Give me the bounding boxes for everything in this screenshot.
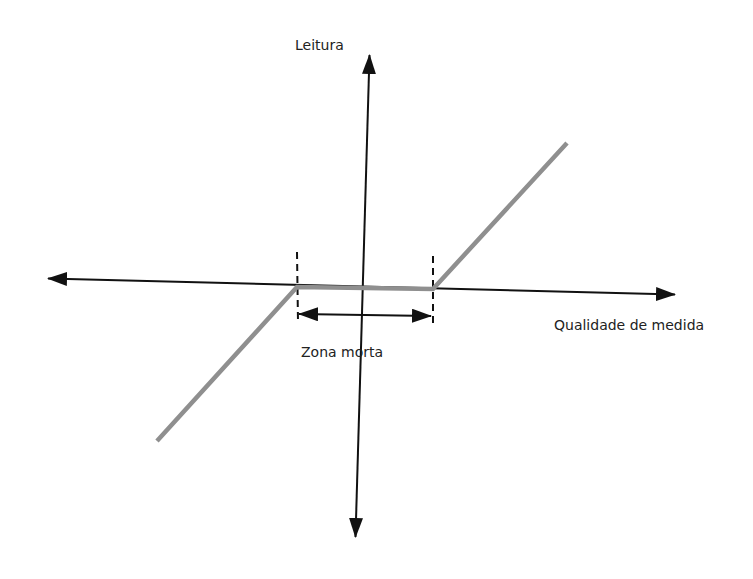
dead-zone-dimension-arrow xyxy=(299,314,431,316)
dead-zone-diagram: Leitura Qualidade de medida Zona morta xyxy=(0,0,753,579)
x-axis-label: Qualidade de medida xyxy=(554,317,704,333)
dead-zone-label: Zona morta xyxy=(301,344,383,360)
y-axis-label: Leitura xyxy=(295,37,344,53)
y-axis xyxy=(356,55,370,537)
